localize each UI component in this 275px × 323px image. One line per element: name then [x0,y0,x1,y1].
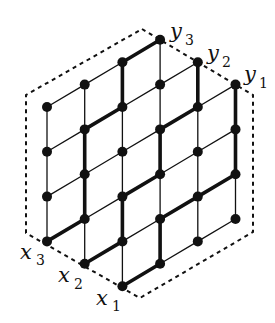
grid-slanted-line [198,129,236,151]
lattice-node [155,214,165,224]
lattice-node [80,80,90,90]
grid-slanted-line [47,129,85,151]
lattice-node [193,236,203,246]
label-x2: x [58,263,70,287]
lattice-node [80,169,90,179]
lattice-node [42,102,52,112]
lattice-node [231,214,241,224]
grid-slanted-line [85,62,123,84]
path-x2-y2 [85,62,198,264]
label-x3-subscript: 3 [36,252,45,268]
label-y3-subscript: 3 [185,32,194,48]
grid-slanted-line [198,85,236,107]
lattice-node [155,35,165,45]
lattice-node [155,259,165,269]
grid-slanted-line [47,85,85,107]
lattice-node [155,80,165,90]
lattice-path-diagram: y3y2y1x3x2x1 [0,0,275,323]
grid-slanted-line [198,219,236,241]
grid-slanted-line [122,219,160,241]
lattice-node [42,192,52,202]
lattice-node [193,147,203,157]
lattice-node [80,124,90,134]
lattice-node [80,214,90,224]
lattice-node [117,281,127,291]
grid-slanted-line [85,152,123,174]
lattice-node [117,147,127,157]
lattice-node [155,124,165,134]
label-y3: y [169,19,183,43]
hexagon-outline [26,29,253,298]
lattice-node [117,236,127,246]
lattice-node [42,236,52,246]
label-x1-subscript: 1 [112,298,121,314]
lattice-node [42,147,52,157]
grid-slanted-line [160,241,198,263]
lattice-node [231,124,241,134]
lattice-node [117,192,127,202]
lattice-node [193,102,203,112]
lattice-nodes [42,35,241,291]
grid-slanted-line [85,197,123,219]
lattice-node [231,80,241,90]
grid-slanted-line [122,85,160,107]
label-y1: y [243,62,257,86]
grid-slanted-line [160,62,198,84]
grid-slanted-line [47,174,85,196]
label-y1-subscript: 1 [259,75,268,91]
lattice-node [231,169,241,179]
label-y2: y [206,41,220,65]
dashed-hexagon-boundary [26,29,253,298]
label-x2-subscript: 2 [74,276,83,292]
label-x3: x [20,240,32,264]
lattice-grid [47,40,236,286]
label-x1: x [96,286,108,310]
lattice-node [117,57,127,67]
grid-slanted-line [160,152,198,174]
lattice-paths [47,40,236,286]
lattice-node [155,169,165,179]
lattice-node [117,102,127,112]
lattice-node [193,192,203,202]
endpoint-labels: y3y2y1x3x2x1 [20,19,268,314]
path-x3-y3 [47,40,160,242]
lattice-node [193,57,203,67]
grid-slanted-line [122,129,160,151]
lattice-node [80,259,90,269]
label-y2-subscript: 2 [222,54,231,70]
